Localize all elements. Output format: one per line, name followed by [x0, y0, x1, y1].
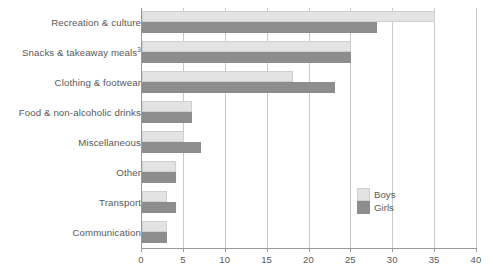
- x-tick-mark: [476, 248, 477, 252]
- x-tick-mark: [350, 248, 351, 252]
- x-tick-mark: [392, 248, 393, 252]
- legend-label-girls: Girls: [374, 202, 394, 213]
- category-label: Other: [0, 167, 141, 178]
- bar-boys: [142, 131, 184, 142]
- x-tick-label: 35: [429, 254, 440, 265]
- bar-girls: [142, 142, 201, 153]
- x-tick-label: 0: [138, 254, 143, 265]
- bar-girls: [142, 52, 351, 63]
- x-tick-mark: [183, 248, 184, 252]
- category-label: Transport: [0, 197, 141, 208]
- x-tick-label: 10: [219, 254, 230, 265]
- chart-category-row: Snacks & takeaway meals3: [0, 38, 493, 68]
- bar-girls: [142, 202, 176, 213]
- x-tick-label: 25: [345, 254, 356, 265]
- bar-chart: 0510152025303540 Recreation & cultureSna…: [0, 0, 493, 275]
- boys-swatch-icon: [357, 188, 370, 201]
- x-tick-label: 40: [471, 254, 482, 265]
- category-footnote-marker: 3: [137, 46, 141, 53]
- bar-girls: [142, 172, 176, 183]
- category-label: Miscellaneous: [0, 137, 141, 148]
- chart-category-row: Food & non-alcoholic drinks: [0, 98, 493, 128]
- bar-boys: [142, 191, 167, 202]
- x-tick-label: 30: [387, 254, 398, 265]
- bar-boys: [142, 71, 293, 82]
- bar-boys: [142, 101, 192, 112]
- bar-boys: [142, 221, 167, 232]
- chart-category-row: Transport: [0, 188, 493, 218]
- x-tick-mark: [225, 248, 226, 252]
- bar-boys: [142, 11, 435, 22]
- bar-girls: [142, 232, 167, 243]
- x-tick-mark: [309, 248, 310, 252]
- category-label: Food & non-alcoholic drinks: [0, 107, 141, 118]
- bar-girls: [142, 22, 377, 33]
- bar-girls: [142, 112, 192, 123]
- chart-category-row: Recreation & culture: [0, 8, 493, 38]
- bar-girls: [142, 82, 335, 93]
- x-tick-mark: [434, 248, 435, 252]
- x-tick-mark: [141, 248, 142, 252]
- category-label: Communication: [0, 227, 141, 238]
- x-tick-label: 15: [261, 254, 272, 265]
- legend-label-boys: Boys: [374, 189, 396, 200]
- girls-swatch-icon: [357, 201, 370, 214]
- chart-category-row: Clothing & footwear: [0, 68, 493, 98]
- bar-boys: [142, 161, 176, 172]
- category-label: Snacks & takeaway meals3: [0, 47, 141, 58]
- category-label: Recreation & culture: [0, 17, 141, 28]
- chart-category-row: Communication: [0, 218, 493, 248]
- bar-boys: [142, 41, 351, 52]
- x-tick-label: 5: [180, 254, 185, 265]
- chart-category-row: Other: [0, 158, 493, 188]
- chart-category-row: Miscellaneous: [0, 128, 493, 158]
- x-tick-label: 20: [303, 254, 314, 265]
- x-tick-mark: [267, 248, 268, 252]
- category-label: Clothing & footwear: [0, 77, 141, 88]
